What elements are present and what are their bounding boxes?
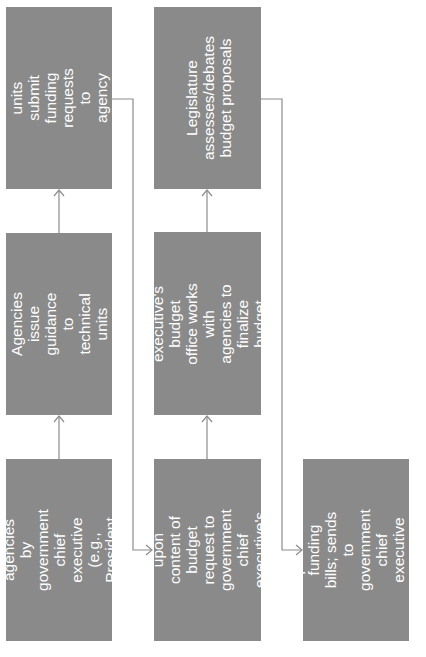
step-box-step5: Government chief executive's budget offi… xyxy=(154,232,261,415)
step-text: Agencies decide upon content of budget r… xyxy=(154,509,261,591)
step-text: Government chief executive's budget offi… xyxy=(154,281,261,366)
step-box-step4: Agencies decide upon content of budget r… xyxy=(154,459,261,641)
step-text: Legislature passes funding bills; sends … xyxy=(303,509,409,591)
step-box-step6: Legislature assesses/debates budget prop… xyxy=(154,7,261,189)
step-text: Guidance issued to agencies by governmen… xyxy=(6,509,112,591)
step-box-step1: Guidance issued to agencies by governmen… xyxy=(6,459,112,641)
step-text: Agencies issue guidance to technical uni… xyxy=(8,292,110,356)
step-text: Agency's technical units submit funding … xyxy=(6,67,112,129)
step-text: Legislature assesses/debates budget prop… xyxy=(182,36,233,160)
step-box-step2: Agencies issue guidance to technical uni… xyxy=(6,233,112,415)
step-box-step7: Legislature passes funding bills; sends … xyxy=(303,459,409,641)
step-box-step3: Agency's technical units submit funding … xyxy=(6,7,112,189)
